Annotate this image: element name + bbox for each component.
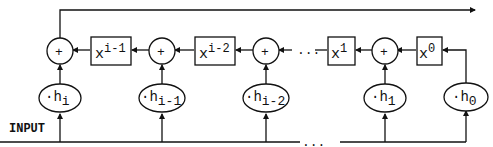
chain-dots: ... (297, 43, 320, 58)
adder-symbol: + (157, 45, 165, 60)
adder-symbol: + (261, 45, 269, 60)
adder-symbol: + (55, 45, 63, 60)
adder-symbol: + (380, 45, 388, 60)
diagram-canvas: ... ... + + + + xi-1 xi-2 x1 x0 ·hi ·hi-… (0, 0, 493, 147)
input-label: INPUT (9, 122, 45, 136)
input-dots: ... (302, 135, 325, 147)
output-line (60, 10, 475, 40)
